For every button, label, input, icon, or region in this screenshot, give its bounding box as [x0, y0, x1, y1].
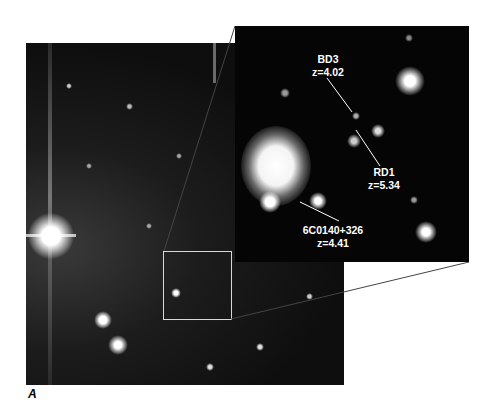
- diffraction-spike: [26, 234, 76, 237]
- star: [108, 335, 128, 355]
- zoom-region-box: [163, 251, 232, 320]
- star: [206, 363, 214, 371]
- star: [146, 223, 152, 229]
- star: [306, 293, 313, 300]
- star: [126, 103, 133, 110]
- diffraction-streak: [213, 43, 216, 83]
- panel-label: A: [28, 387, 37, 401]
- label-6C0140: 6C0140+326 z=4.41: [293, 224, 373, 250]
- label-BD3: BD3 z=4.02: [303, 53, 353, 79]
- star: [94, 311, 112, 329]
- inset-image: BD3 z=4.02 RD1 z=5.34 6C0140+326 z=4.41: [235, 26, 469, 262]
- label-RD1: RD1 z=5.34: [359, 166, 409, 192]
- star: [86, 163, 92, 169]
- star: [256, 343, 264, 351]
- star: [66, 83, 72, 89]
- star: [176, 153, 182, 159]
